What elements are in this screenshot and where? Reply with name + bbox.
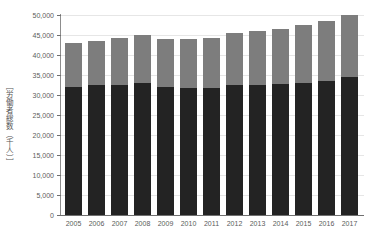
bar-segment-upper[interactable] bbox=[65, 43, 82, 87]
y-tick-label: 15,000 bbox=[0, 152, 54, 159]
bar-segment-lower[interactable] bbox=[318, 81, 335, 215]
bar-segment-lower[interactable] bbox=[180, 88, 197, 215]
bar-group[interactable] bbox=[180, 39, 197, 215]
bar-group[interactable] bbox=[295, 25, 312, 215]
gridline bbox=[61, 15, 364, 16]
bar-segment-lower[interactable] bbox=[88, 85, 105, 215]
bar-segment-upper[interactable] bbox=[249, 31, 266, 85]
bar-group[interactable] bbox=[111, 38, 128, 215]
y-tick-label: 40,000 bbox=[0, 52, 54, 59]
bar-group[interactable] bbox=[341, 15, 358, 215]
bar-group[interactable] bbox=[203, 38, 220, 215]
bar-segment-lower[interactable] bbox=[111, 85, 128, 215]
y-tick-label: 25,000 bbox=[0, 112, 54, 119]
bar-group[interactable] bbox=[249, 31, 266, 215]
bar-segment-upper[interactable] bbox=[226, 33, 243, 86]
y-tick-label: 35,000 bbox=[0, 72, 54, 79]
bar-group[interactable] bbox=[65, 43, 82, 215]
y-tick-label: 45,000 bbox=[0, 32, 54, 39]
bar-segment-upper[interactable] bbox=[341, 15, 358, 77]
bar-segment-lower[interactable] bbox=[157, 87, 174, 215]
y-tick-label: 50,000 bbox=[0, 12, 54, 19]
plot-area bbox=[61, 15, 364, 215]
bar-segment-lower[interactable] bbox=[341, 77, 358, 215]
bar-segment-upper[interactable] bbox=[157, 39, 174, 87]
y-tick-label: 5,000 bbox=[0, 192, 54, 199]
x-tick-label: 2017 bbox=[335, 220, 365, 227]
bar-segment-lower[interactable] bbox=[226, 85, 243, 215]
y-tick-label: 30,000 bbox=[0, 92, 54, 99]
y-tick-label: 20,000 bbox=[0, 132, 54, 139]
bar-segment-upper[interactable] bbox=[88, 41, 105, 85]
bar-group[interactable] bbox=[318, 21, 335, 215]
bar-segment-upper[interactable] bbox=[272, 29, 289, 84]
bar-group[interactable] bbox=[272, 29, 289, 215]
bar-group[interactable] bbox=[134, 35, 151, 215]
bar-segment-upper[interactable] bbox=[295, 25, 312, 83]
bar-chart: ［労働者総数（千人）］ 50,00045,00040,00035,00030,0… bbox=[0, 0, 371, 245]
bar-segment-upper[interactable] bbox=[203, 38, 220, 88]
bar-segment-upper[interactable] bbox=[134, 35, 151, 82]
bar-segment-upper[interactable] bbox=[111, 38, 128, 84]
bar-segment-lower[interactable] bbox=[295, 83, 312, 215]
bar-segment-lower[interactable] bbox=[134, 83, 151, 215]
bar-group[interactable] bbox=[226, 33, 243, 215]
x-axis-line bbox=[60, 215, 364, 216]
bar-segment-lower[interactable] bbox=[249, 85, 266, 215]
bar-segment-upper[interactable] bbox=[318, 21, 335, 81]
bar-segment-upper[interactable] bbox=[180, 39, 197, 88]
bar-segment-lower[interactable] bbox=[203, 88, 220, 215]
bar-segment-lower[interactable] bbox=[65, 87, 82, 215]
y-tick-label: 0 bbox=[0, 212, 54, 219]
bar-group[interactable] bbox=[88, 41, 105, 215]
bar-group[interactable] bbox=[157, 39, 174, 215]
bar-segment-lower[interactable] bbox=[272, 84, 289, 215]
y-tick-mark bbox=[57, 215, 61, 216]
y-tick-label: 10,000 bbox=[0, 172, 54, 179]
